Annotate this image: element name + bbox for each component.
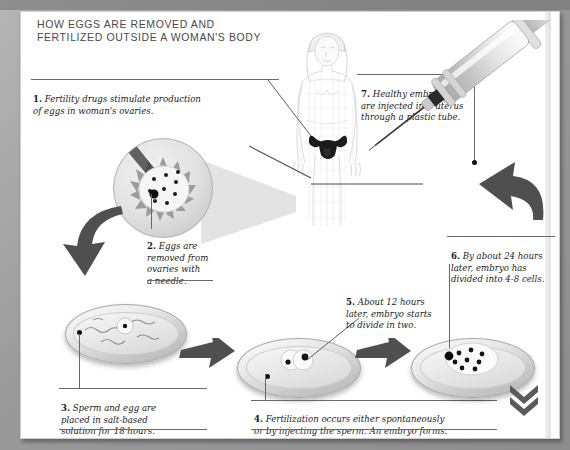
leader-caption-6 [449,264,450,348]
caption-3: 3. Sperm and egg are placed in salt-base… [61,392,211,438]
caption-6: 6. By about 24 hours later, embryo has d… [451,240,557,286]
caption-2-number: 2. [147,241,156,251]
caption-2-rule [147,280,213,281]
caption-3-text: Sperm and egg are placed in salt-based s… [61,403,156,436]
caption-4: 4. Fertilization occurs either spontaneo… [254,403,502,437]
caption-1-text: Fertility drugs stimulate production of … [33,94,201,115]
arrow-dish1-to-dish2 [179,338,239,382]
caption-3-rule-bottom [59,429,207,430]
leader-caption-3 [79,334,80,388]
caption-4-text: Fertilization occurs either spontaneousl… [254,414,447,435]
caption-4-rule-top [251,400,497,401]
caption-2: 2. Eggs are removed from ovaries with a … [147,230,233,287]
caption-6-text: By about 24 hours later, embryo has divi… [451,251,544,284]
caption-2-text: Eggs are removed from ovaries with a nee… [147,241,208,285]
caption-1-number: 1. [33,94,42,104]
leader-caption-2 [151,194,152,229]
petri-dish-sperm-and-egg [65,304,185,362]
double-chevron-down-icon [507,382,541,416]
left-leader-to-uterus [249,144,315,186]
leader-caption-4 [265,374,266,400]
caption-1-rule [31,79,279,80]
caption-4-number: 4. [254,414,263,424]
caption-6-rule [447,236,555,237]
caption-1: 1. Fertility drugs stimulate production … [33,83,273,117]
uterus-to-syringe-line [311,168,431,194]
caption-5-number: 5. [346,297,355,307]
frame-top-shadow [0,0,570,10]
diagram-panel: HOW EGGS ARE REMOVED AND FERTILIZED OUTS… [20,11,560,439]
multicell-embryo [445,343,498,375]
caption-1-leader [267,72,313,140]
arrow-dish2-to-dish3 [355,338,413,382]
caption-3-number: 3. [61,403,70,413]
poster-frame: HOW EGGS ARE REMOVED AND FERTILIZED OUTS… [0,0,570,450]
caption-5: 5. About 12 hours later, embryo starts t… [346,286,456,332]
arrow-to-dish-1 [59,200,137,282]
caption-4-rule-bottom [251,429,497,430]
page-title: HOW EGGS ARE REMOVED AND FERTILIZED OUTS… [37,18,261,44]
arrow-dish3-to-syringe [473,158,549,230]
caption-3-rule-top [59,388,207,389]
caption-6-number: 6. [451,251,460,261]
caption-5-text: About 12 hours later, embryo starts to d… [346,297,432,330]
